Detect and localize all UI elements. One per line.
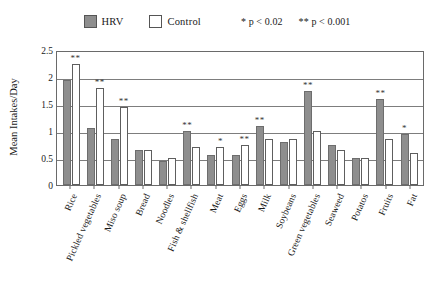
bar-group	[156, 52, 180, 185]
x-axis-label-text: Seaweed	[323, 192, 346, 228]
chart-legend: HRV Control * p < 0.02 ** p < 0.001	[0, 11, 434, 31]
x-axis-label-cell: Milk	[252, 190, 276, 290]
significance-marker: **	[303, 81, 313, 90]
x-axis-label-text: Eggs	[232, 192, 249, 214]
legend-entry-hrv: HRV	[84, 15, 124, 28]
bar-control	[410, 153, 418, 185]
x-axis-label-cell: Pickled vegetables	[82, 190, 106, 290]
bar-hrv	[63, 80, 71, 185]
significance-marker: **	[255, 116, 265, 125]
empty-square-icon	[149, 15, 162, 28]
x-axis-label-cell: Bread	[131, 190, 155, 290]
significance-marker: **	[375, 89, 385, 98]
significance-marker: **	[95, 78, 105, 87]
filled-square-icon	[84, 15, 97, 28]
bar-hrv: **	[256, 126, 264, 185]
x-axis-label-cell: Potatos	[349, 190, 373, 290]
bar-group: **	[83, 52, 107, 185]
x-axis-label-cell: Seaweed	[325, 190, 349, 290]
y-axis-tick-label: 1.5	[7, 100, 53, 110]
bar-hrv	[87, 128, 95, 185]
x-axis-tick-mark	[288, 186, 289, 189]
x-axis-label-text: Rice	[63, 192, 79, 212]
bar-hrv	[232, 155, 240, 185]
legend-note-p0001: ** p < 0.001	[299, 16, 351, 27]
y-axis-tick-label: 0	[7, 181, 53, 191]
x-axis-tick-mark	[215, 186, 216, 189]
significance-marker: **	[71, 54, 81, 63]
x-axis-label-text: Noodles	[154, 192, 176, 226]
x-axis-label-text: Meat	[208, 192, 225, 214]
x-axis-label-text: Milk	[257, 192, 274, 213]
significance-marker: *	[402, 124, 407, 133]
y-axis-tick-labels: 00.511.522.5	[0, 51, 53, 186]
legend-label-control: Control	[167, 16, 201, 27]
chart-figure: HRV Control * p < 0.02 ** p < 0.001 Mean…	[0, 0, 434, 296]
significance-marker: **	[240, 135, 250, 144]
x-axis-label-cell: Green vegetables	[301, 190, 325, 290]
bar-control: **	[72, 64, 80, 186]
y-axis-tick-label: 1	[7, 127, 53, 137]
bar-group: **	[59, 52, 83, 185]
bar-group: **	[228, 52, 252, 185]
x-axis-label-cell: Meat	[204, 190, 228, 290]
significance-marker: **	[119, 97, 129, 106]
x-axis-label-text: Fat	[405, 192, 419, 207]
x-axis-label-cell: Miso soup	[107, 190, 131, 290]
x-axis-tick-mark	[118, 186, 119, 189]
legend-label-hrv: HRV	[102, 16, 124, 27]
significance-marker: **	[182, 121, 192, 130]
legend-note-p002: * p < 0.02	[241, 16, 283, 27]
bar-group	[276, 52, 300, 185]
y-axis-tick-label: 2	[7, 73, 53, 83]
bar-hrv	[280, 142, 288, 185]
y-axis-tick-label: 2.5	[7, 46, 53, 56]
x-axis-label-cell: Fat	[398, 190, 422, 290]
bar-group: **	[373, 52, 397, 185]
legend-entry-control: Control	[149, 15, 201, 28]
bar-group: *	[397, 52, 421, 185]
x-axis-label-text: Miso soup	[102, 192, 128, 233]
x-axis-label-cell: Fish & shellfish	[179, 190, 203, 290]
x-axis-tick-mark	[385, 186, 386, 189]
x-axis-label-text: Soybeans	[273, 192, 297, 230]
x-axis-label-cell: Fruits	[373, 190, 397, 290]
x-axis-label-text: Fruits	[376, 192, 394, 217]
bar-hrv	[159, 161, 167, 185]
x-axis-labels: RicePickled vegetablesMiso soupBreadNood…	[56, 190, 424, 290]
x-axis-label-text: Potatos	[350, 192, 371, 222]
x-axis-label-cell: Eggs	[228, 190, 252, 290]
x-axis-label-text: Bread	[133, 192, 152, 217]
y-axis-tick-label: 0.5	[7, 154, 53, 164]
bar-group: **	[252, 52, 276, 185]
